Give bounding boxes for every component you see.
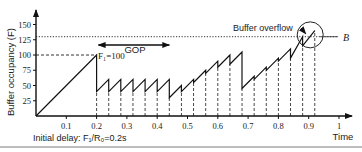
x-tick-label: 0.6 xyxy=(212,121,223,131)
initial-delay-label: Initial delay: F₁/R₀=0.2s xyxy=(33,133,127,143)
x-tick-label: 0.2 xyxy=(91,121,102,131)
gop-label: GOP xyxy=(124,44,145,55)
overflow-leader xyxy=(301,28,306,34)
y-tick-label: 50 xyxy=(23,81,32,91)
y-axis-label: Buffer occupancy (F) xyxy=(5,28,16,116)
x-tick-label: 0.4 xyxy=(152,121,163,131)
y-tick-label: 25 xyxy=(23,96,32,106)
overflow-label: Buffer overflow xyxy=(233,23,293,33)
buffer-occupancy-chart: 2550751001251500.10.20.30.40.50.60.70.80… xyxy=(0,0,362,152)
reference-lines xyxy=(36,37,338,55)
x-tick-label: 0.9 xyxy=(303,121,314,131)
x-axis-label: Time xyxy=(333,131,354,142)
y-tick-label: 150 xyxy=(18,20,31,30)
b-label: B xyxy=(343,32,349,43)
y-tick-label: 125 xyxy=(18,35,31,45)
series-buffer-occupancy xyxy=(36,31,315,116)
overflow-circle xyxy=(297,22,323,48)
x-tick-label: 1 xyxy=(337,121,341,131)
f1-label: F₁=100 xyxy=(98,51,125,61)
x-tick-label: 0.8 xyxy=(273,121,284,131)
buffer-occupancy-line xyxy=(36,31,315,116)
y-tick-label: 100 xyxy=(18,50,31,60)
bottom-rule xyxy=(0,146,362,148)
x-tick-label: 0.1 xyxy=(61,121,72,131)
x-tick-label: 0.5 xyxy=(182,121,193,131)
x-tick-label: 0.3 xyxy=(122,121,133,131)
x-tick-label: 0.7 xyxy=(243,121,254,131)
y-tick-label: 75 xyxy=(23,65,32,75)
